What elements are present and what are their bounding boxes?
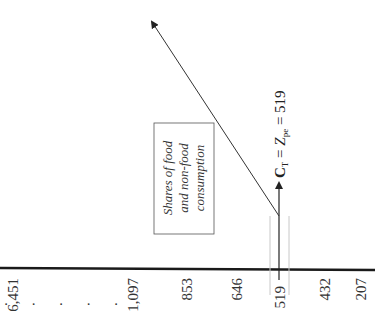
box-line-1: Shares of food: [160, 140, 175, 215]
tick-label: 646: [229, 278, 245, 301]
diagram-canvas: Shares of food and non-food consumption …: [0, 0, 375, 333]
tick-label-highlight: 519: [272, 286, 288, 309]
eq-z-sub: pe: [280, 129, 290, 138]
equation-label: CT = Zpe = 519: [272, 90, 290, 178]
eq-equals-2: = 519: [272, 90, 288, 128]
eq-c: C: [272, 167, 288, 178]
box-line-2: and non-food: [176, 143, 191, 213]
axis-ticks: 6,451 . . . . . 1,097 853 646 519 432 20…: [4, 278, 369, 312]
tick-label: 853: [179, 278, 195, 301]
tick-label: 207: [353, 278, 369, 301]
box-line-3: consumption: [192, 145, 207, 211]
tick-label: 1,097: [125, 278, 141, 312]
main-axis: [0, 268, 375, 270]
tick-label: 432: [317, 278, 333, 301]
eq-equals-1: =: [272, 146, 288, 162]
tick-ellipsis: . . . . .: [4, 292, 128, 308]
